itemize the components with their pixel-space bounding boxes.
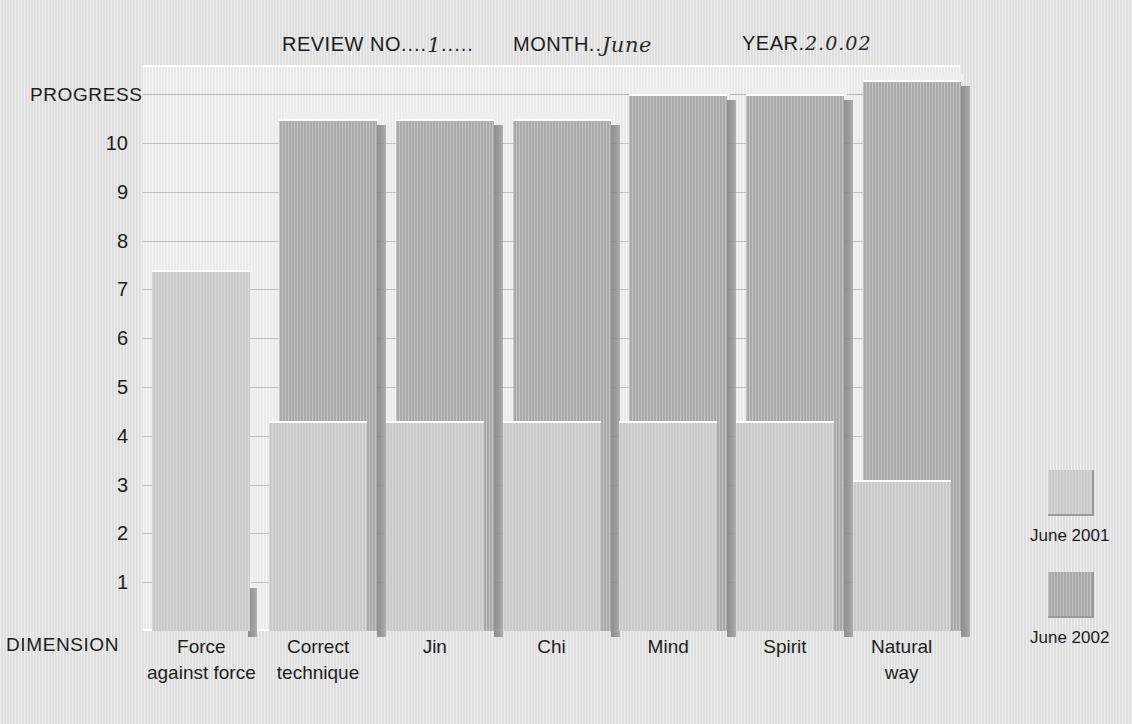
review-dots-left: .... [401,33,427,55]
y-axis-tick-10: 10 [18,132,128,155]
bar-side [844,100,853,637]
legend-swatch [1048,572,1094,618]
y-axis-tick-3: 3 [18,473,128,496]
bar-face [152,270,250,631]
month-dots: .. [589,33,602,55]
y-axis-tick-labels: 10987654321 [18,0,128,724]
x-axis-label-line: Correct [260,634,377,660]
x-axis-label-natural-way: Naturalway [843,634,960,686]
x-axis-label-line: Jin [376,634,493,660]
review-dots-right: ..... [441,33,474,55]
x-axis-label-chi: Chi [493,634,610,660]
review-number-value: 1 [427,33,441,57]
bar-face [853,480,951,631]
y-axis-tick-9: 9 [18,180,128,203]
month-field: MONTH..June [513,32,652,56]
x-axis-label-line: Natural [843,634,960,660]
month-label: MONTH [513,33,589,55]
y-axis-tick-7: 7 [18,278,128,301]
bar-face [269,421,367,631]
bar-2001-force-against-force [152,270,250,631]
x-axis-label-line: Chi [493,634,610,660]
y-axis-tick-4: 4 [18,424,128,447]
year-label: YEAR [742,32,798,54]
review-number-field: REVIEW NO....1..... [282,32,474,56]
y-axis-tick-8: 8 [18,229,128,252]
bar-side [611,125,620,637]
bar-side [961,86,970,637]
month-value: June [602,33,652,57]
bar-2001-natural-way [853,480,951,631]
bar-side [377,125,386,637]
bar-face [619,421,717,631]
legend-entry-1: June 2001 [1030,470,1130,546]
bar-2001-chi [503,421,601,631]
y-axis-tick-6: 6 [18,327,128,350]
x-axis-label-mind: Mind [610,634,727,660]
x-axis-label-line: Spirit [727,634,844,660]
x-axis-label-spirit: Spirit [727,634,844,660]
y-axis-tick-5: 5 [18,376,128,399]
legend: June 2001June 2002 [1030,470,1130,674]
year-value: 2.0.02 [805,32,871,54]
legend-entry-2: June 2002 [1030,572,1130,648]
y-axis-tick-1: 1 [18,571,128,594]
y-axis-tick-2: 2 [18,522,128,545]
x-axis-label-line: Mind [610,634,727,660]
legend-label: June 2002 [1030,628,1130,648]
bar-face [386,421,484,631]
bar-side [727,100,736,637]
x-axis-label-line: Force [143,634,260,660]
legend-label: June 2001 [1030,526,1130,546]
chart-page: REVIEW NO....1..... MONTH..June YEAR.2.0… [0,0,1132,724]
bar-face [736,421,834,631]
bar-2001-mind [619,421,717,631]
year-field: YEAR.2.0.02 [742,32,871,55]
review-number-label: REVIEW NO [282,33,401,55]
x-axis-label-force-against-force: Forceagainst force [143,634,260,686]
bar-2001-jin [386,421,484,631]
x-axis-label-line: way [843,660,960,686]
x-axis-label-jin: Jin [376,634,493,660]
plot-area [143,65,960,631]
x-axis-label-correct-technique: Correcttechnique [260,634,377,686]
bar-2001-spirit [736,421,834,631]
x-axis-label-line: against force [143,660,260,686]
bar-2001-correct-technique [269,421,367,631]
bar-side [494,125,503,637]
legend-swatch [1048,470,1094,516]
x-axis-label-line: technique [260,660,377,686]
bar-face [503,421,601,631]
